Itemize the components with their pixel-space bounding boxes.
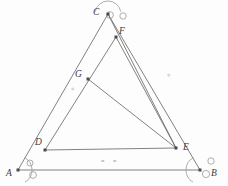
angle-arcs-layer: [25, 1, 194, 182]
vertex-dot-d[interactable]: [44, 149, 47, 152]
vertex-dot-a[interactable]: [17, 169, 20, 172]
point-label-d: D: [35, 138, 42, 148]
segment-ge: [88, 79, 176, 148]
circle-b-1-marker: [208, 158, 214, 164]
point-label-b: B: [211, 169, 217, 179]
segment-ac: [18, 14, 108, 170]
tick-de-left-congruence-mark: ≡: [101, 158, 104, 164]
vertex-dot-b[interactable]: [199, 169, 202, 172]
point-label-g: G: [75, 70, 82, 80]
point-label-e: E: [183, 143, 189, 153]
segment-fe: [116, 37, 176, 148]
vertex-dot-e[interactable]: [175, 147, 178, 150]
circle-b-2-marker: [202, 170, 209, 177]
segment-de: [45, 148, 176, 150]
point-label-c: C: [93, 8, 99, 18]
segment-df: [45, 37, 116, 150]
point-label-a: A: [6, 169, 12, 179]
vertex-dot-f[interactable]: [115, 36, 118, 39]
vertex-dot-g[interactable]: [87, 78, 90, 81]
vertex-dot-c[interactable]: [107, 13, 110, 16]
point-label-f: F: [119, 27, 125, 37]
circle-a-2-marker: [30, 172, 37, 179]
open-circles-layer: [27, 12, 214, 179]
circle-c-2-marker: [120, 13, 126, 19]
segments-layer: [18, 14, 200, 170]
tick-de-right-congruence-mark: ≡: [113, 158, 116, 164]
geometry-figure: ABCDEFG ≡≡≡≡: [0, 0, 228, 186]
